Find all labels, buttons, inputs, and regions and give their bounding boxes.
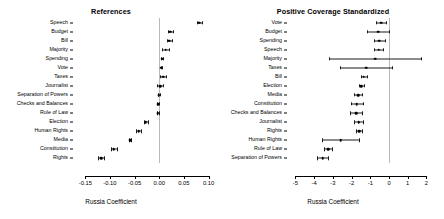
- confidence-interval-cap: [172, 39, 173, 42]
- estimate-point: [377, 30, 380, 33]
- y-axis-tick: [284, 140, 287, 141]
- estimate-point: [355, 112, 358, 115]
- estimate-point: [339, 139, 342, 142]
- coefficient-row: Speech: [287, 45, 433, 54]
- y-axis-tick: [70, 76, 73, 77]
- confidence-interval-cap: [362, 111, 363, 114]
- estimate-point: [145, 121, 148, 124]
- y-axis-tick: [284, 22, 287, 23]
- y-axis-label: Separation of Powers: [231, 156, 282, 161]
- x-axis-tick: [408, 176, 409, 179]
- coefficient-row: Checks and Balances: [73, 100, 211, 109]
- coefficient-row: Budget: [73, 27, 211, 36]
- data-region-references: SpeechBudgetBillMajoritySpendingVoteTaxe…: [73, 18, 211, 163]
- x-axis-tick: [159, 176, 160, 179]
- coefficient-plot-figure: References SpeechBudgetBillMajoritySpend…: [0, 0, 444, 219]
- x-axis-tick: [110, 176, 111, 179]
- confidence-interval-cap: [324, 148, 325, 151]
- coefficient-row: Majority: [73, 45, 211, 54]
- y-axis-tick: [70, 49, 73, 50]
- y-axis-label: Bill: [61, 38, 68, 43]
- x-axis-tick: [135, 176, 136, 179]
- estimate-point: [156, 112, 159, 115]
- y-axis-label: Checks and Balances: [17, 101, 68, 106]
- confidence-interval-cap: [364, 84, 365, 87]
- confidence-interval-cap: [362, 130, 363, 133]
- confidence-interval-cap: [148, 121, 149, 124]
- estimate-point: [159, 85, 162, 88]
- coefficient-row: Election: [287, 81, 433, 90]
- confidence-interval-cap: [351, 102, 352, 105]
- coefficient-row: Journalist: [73, 81, 211, 90]
- confidence-interval-cap: [363, 102, 364, 105]
- estimate-point: [362, 76, 365, 79]
- confidence-interval-cap: [98, 157, 99, 160]
- y-axis-label: Journalist: [259, 120, 282, 125]
- x-axis-tick-label: -0.15: [79, 180, 92, 186]
- x-axis-tick-label: -1: [368, 180, 373, 186]
- confidence-interval-cap: [163, 84, 164, 87]
- coefficient-row: Taxes: [287, 63, 433, 72]
- estimate-point: [365, 67, 368, 70]
- panel-references: References SpeechBudgetBillMajoritySpend…: [0, 0, 222, 219]
- x-axis-tick-label: 0.00: [154, 180, 165, 186]
- x-axis-positive-coverage: -5-4-3-2-1012: [287, 176, 433, 192]
- coefficient-row: Rights: [287, 127, 433, 136]
- coefficient-row: Media: [287, 91, 433, 100]
- confidence-interval-cap: [166, 75, 167, 78]
- estimate-point: [380, 21, 383, 24]
- y-axis-tick: [70, 149, 73, 150]
- y-axis-tick: [284, 122, 287, 123]
- estimate-point: [327, 148, 330, 151]
- x-axis-tick: [85, 176, 86, 179]
- confidence-interval-cap: [317, 157, 318, 160]
- coefficient-row: Constitution: [73, 145, 211, 154]
- y-axis-label: Majority: [263, 56, 282, 61]
- coefficient-row: Spending: [73, 54, 211, 63]
- confidence-interval-cap: [328, 157, 329, 160]
- y-axis-label: Rights: [267, 129, 282, 134]
- coefficient-row: Constitution: [287, 100, 433, 109]
- estimate-point: [377, 48, 380, 51]
- y-axis-tick: [284, 158, 287, 159]
- y-axis-label: Journalist: [45, 83, 68, 88]
- coefficient-row: Rule of Law: [73, 109, 211, 118]
- confidence-interval-cap: [362, 93, 363, 96]
- estimate-point: [356, 103, 359, 106]
- y-axis-tick: [284, 149, 287, 150]
- coefficient-row: Human Rights: [73, 127, 211, 136]
- coefficient-row: Budget: [287, 27, 433, 36]
- confidence-interval-cap: [350, 111, 351, 114]
- coefficient-row: Bill: [287, 72, 433, 81]
- y-axis-tick: [70, 113, 73, 114]
- y-axis-label: Spending: [46, 56, 68, 61]
- confidence-interval-cap: [202, 21, 203, 24]
- confidence-interval-cap: [162, 48, 163, 51]
- y-axis-tick: [70, 122, 73, 123]
- y-axis-tick: [70, 40, 73, 41]
- estimate-point: [360, 85, 363, 88]
- y-axis-label: Spending: [260, 38, 282, 43]
- confidence-interval-cap: [359, 139, 360, 142]
- coefficient-row: Rights: [73, 154, 211, 163]
- x-axis-tick: [370, 176, 371, 179]
- confidence-interval-cap: [361, 75, 362, 78]
- estimate-point: [378, 39, 381, 42]
- x-axis-tick-label: -3: [330, 180, 335, 186]
- confidence-interval-cap: [104, 157, 105, 160]
- confidence-interval-cap: [340, 66, 341, 69]
- confidence-interval-cap: [389, 30, 390, 33]
- confidence-interval-cap: [160, 93, 161, 96]
- y-axis-tick: [70, 95, 73, 96]
- confidence-interval-cap: [363, 121, 364, 124]
- coefficient-row: Journalist: [287, 118, 433, 127]
- confidence-interval-cap: [322, 139, 323, 142]
- y-axis-label: Constitution: [40, 147, 68, 152]
- y-axis-label: Rights: [53, 156, 68, 161]
- estimate-point: [137, 130, 140, 133]
- x-axis-tick: [352, 176, 353, 179]
- x-axis-tick: [184, 176, 185, 179]
- y-axis-label: Media: [54, 138, 68, 143]
- confidence-interval-cap: [385, 39, 386, 42]
- coefficient-row: Separation of Powers: [287, 154, 433, 163]
